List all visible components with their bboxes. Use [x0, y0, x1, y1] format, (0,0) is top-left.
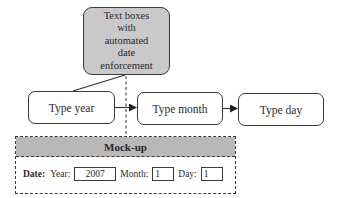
date-label: Date: [23, 169, 45, 179]
step-type-day: Type day [238, 93, 324, 126]
step-label: Type year [49, 102, 95, 114]
mockup-header: Mock-up [16, 137, 235, 157]
year-label: Year: [50, 169, 70, 179]
step-label: Type month [152, 103, 207, 115]
callout-connector [73, 75, 125, 91]
step-type-month: Type month [137, 92, 223, 125]
mockup-panel: Mock-up Date: Year: 2007 Month: 1 Day: 1 [15, 136, 236, 194]
callout-line: automated [105, 35, 149, 48]
date-form-row: Date: Year: 2007 Month: 1 Day: 1 [23, 167, 223, 181]
step-type-year: Type year [28, 91, 115, 124]
callout-line: with [117, 22, 136, 35]
mockup-title: Mock-up [104, 141, 147, 153]
callout-box: Text boxes with automated date enforceme… [83, 7, 170, 75]
day-label: Day: [178, 169, 196, 179]
month-label: Month: [120, 169, 148, 179]
callout-line: Text boxes [104, 10, 150, 23]
callout-line: date [118, 47, 136, 60]
month-input[interactable]: 1 [152, 167, 174, 181]
callout-line: enforcement [100, 60, 152, 73]
day-input[interactable]: 1 [201, 167, 223, 181]
step-label: Type day [260, 104, 302, 116]
year-input[interactable]: 2007 [74, 167, 116, 181]
